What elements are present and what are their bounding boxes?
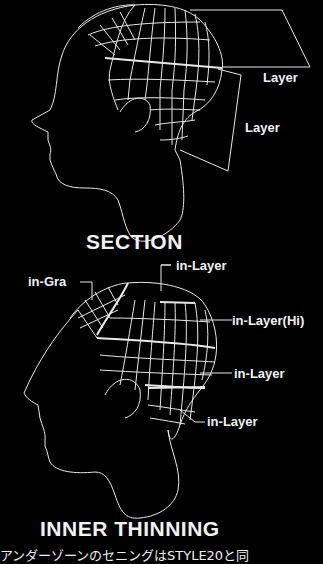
head-inner-thinning-diagram (24, 265, 232, 518)
layer-label-top: Layer (263, 70, 298, 85)
in-gra-label: in-Gra (28, 274, 66, 289)
inner-thinning-title: INNER THINNING (40, 517, 220, 541)
layer-label-side: Layer (245, 120, 280, 135)
caption-text: アンダーゾーンのセニングはSTYLE20と同 (0, 545, 323, 564)
in-layer-mid-label: in-Layer (234, 366, 285, 381)
in-layer-low-label: in-Layer (207, 414, 258, 429)
section-title: SECTION (86, 230, 183, 254)
in-layer-hi-label: in-Layer(Hi) (232, 313, 304, 328)
in-layer-top-label: in-Layer (176, 258, 227, 273)
